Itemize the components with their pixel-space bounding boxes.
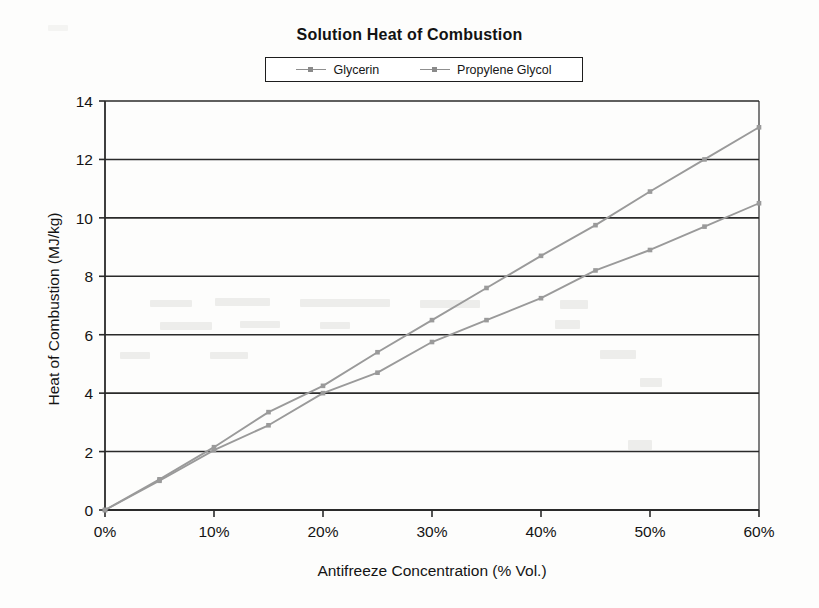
svg-text:60%: 60% [743,523,774,540]
svg-text:12: 12 [76,151,93,168]
plot-area: 02468101214 0%10%20%30%40%50%60% [0,0,819,608]
y-axis-label: Heat of Combustion (MJ/kg) [45,159,63,459]
series-glycerin [103,125,762,512]
svg-text:2: 2 [84,444,93,461]
svg-text:6: 6 [84,327,93,344]
svg-text:10%: 10% [198,523,229,540]
series-propylene-glycol [103,201,762,512]
data-series-layer [103,125,762,512]
chart-container: Solution Heat of Combustion Glycerin Pro… [0,0,819,608]
svg-text:50%: 50% [634,523,665,540]
svg-text:4: 4 [84,385,93,402]
svg-text:0: 0 [84,502,93,519]
gridlines [105,101,759,452]
x-axis-label: Antifreeze Concentration (% Vol.) [105,562,759,580]
svg-text:14: 14 [76,93,94,110]
svg-text:0%: 0% [94,523,117,540]
x-axis-ticks [105,510,759,517]
svg-text:20%: 20% [307,523,338,540]
y-axis-tick-labels: 02468101214 [76,93,94,519]
svg-text:40%: 40% [525,523,556,540]
svg-text:8: 8 [84,268,93,285]
svg-text:30%: 30% [416,523,447,540]
svg-text:10: 10 [76,210,94,227]
x-axis-tick-labels: 0%10%20%30%40%50%60% [94,523,775,540]
axis-lines [105,101,759,510]
